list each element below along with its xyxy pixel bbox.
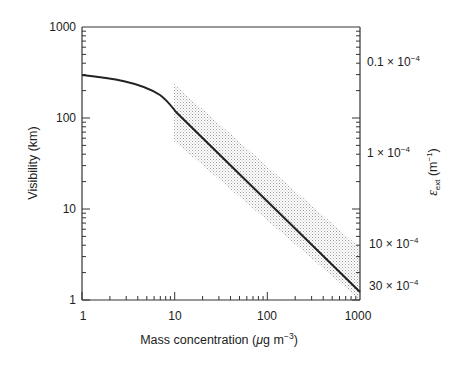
x-tick-1: 1	[80, 309, 87, 323]
x-axis-title: Mass concentration (μg m−3)	[140, 331, 298, 347]
y-tick-10: 10	[63, 202, 77, 216]
x-tick-10: 10	[168, 309, 182, 323]
x-tick-1000: 1000	[345, 309, 372, 323]
x-axis-ticks	[82, 292, 356, 300]
y2-tick-30e-4: 30 × 10−4	[369, 278, 419, 293]
y2-tick-10e-4: 10 × 10−4	[369, 236, 419, 251]
y2-tick-1e-4: 1 × 10−4	[367, 145, 410, 160]
chart-canvas: 1000 100 10 1 1 10 100 1000 0.1 × 10−4 1…	[0, 0, 450, 366]
y-tick-1: 1	[69, 293, 76, 307]
y-tick-100: 100	[56, 111, 76, 125]
y2-tick-0.1e-4: 0.1 × 10−4	[367, 54, 420, 69]
y-axis-title: Visibility (km)	[26, 126, 40, 199]
uncertainty-band	[174, 84, 360, 300]
y2-axis-title: εext (m−1)	[425, 148, 442, 196]
y-tick-1000: 1000	[49, 20, 76, 34]
y-axis-ticks	[82, 31, 90, 300]
x-tick-100: 100	[257, 309, 277, 323]
